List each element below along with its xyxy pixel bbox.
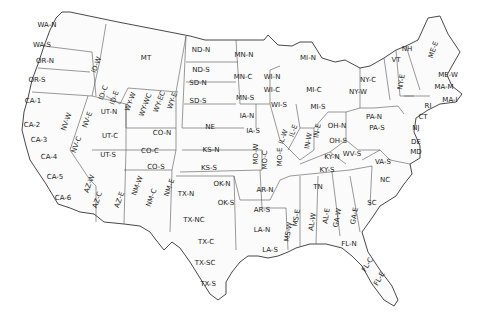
region-label-sd-n: SD-N <box>189 80 207 87</box>
region-label-tx-s: TX-S <box>200 281 216 288</box>
region-label-me-w: ME-W <box>438 72 458 79</box>
region-label-mi-n: MI-N <box>300 55 316 62</box>
region-label-ky-s: KY-S <box>320 167 335 174</box>
region-label-pa-s: PA-S <box>369 125 384 132</box>
region-label-tn: TN <box>313 184 323 191</box>
region-label-ne: NE <box>205 124 215 131</box>
region-label-wa-n: WA-N <box>38 22 57 29</box>
region-label-ny-c: NY-C <box>360 77 376 84</box>
region-label-ca-2: CA-2 <box>24 122 41 129</box>
region-label-tx-nc: TX-NC <box>183 217 204 224</box>
region-label-ks-n: KS-N <box>203 147 220 154</box>
region-label-ca-5: CA-5 <box>47 174 64 181</box>
region-label-mn-c: MN-C <box>234 74 253 81</box>
region-label-nd-s: ND-S <box>192 67 210 74</box>
region-label-md: MD <box>410 149 421 156</box>
region-label-wv-s: WV-S <box>343 151 361 158</box>
region-label-ar-n: AR-N <box>256 187 273 194</box>
region-label-nd-n: ND-N <box>192 47 210 54</box>
region-label-mt: MT <box>141 55 151 62</box>
region-label-ia-n: IA-N <box>240 113 254 120</box>
region-label-mo-c: MO-C <box>262 150 269 169</box>
region-label-la-n: LA-N <box>254 227 270 234</box>
region-label-ar-s: AR-S <box>254 207 270 214</box>
region-label-mo-w: MO-W <box>253 144 260 165</box>
region-label-ny-w: NY-W <box>349 89 367 96</box>
region-label-ca-4: CA-4 <box>41 154 58 161</box>
region-label-va-s: VA-S <box>375 159 391 166</box>
region-label-ok-s: OK-S <box>218 200 234 207</box>
region-label-nj: NJ <box>412 125 419 132</box>
region-label-tx-c: TX-C <box>198 239 214 246</box>
region-label-de: DE <box>411 139 421 146</box>
region-label-ia-s: IA-S <box>246 128 260 135</box>
region-label-ut-s: UT-S <box>100 152 116 159</box>
region-label-or-s: OR-S <box>28 77 45 84</box>
region-label-oh-s: OH-S <box>329 138 347 145</box>
region-label-co-c: CO-C <box>141 148 159 155</box>
region-label-ma-i: MA-I <box>442 97 457 104</box>
region-label-ct: CT <box>418 114 427 121</box>
region-label-mi-s: MI-S <box>310 104 325 111</box>
region-label-fl-n: FL-N <box>341 241 357 248</box>
region-label-ut-c: UT-C <box>102 133 118 140</box>
region-label-ok-n: OK-N <box>213 181 230 188</box>
region-label-wi-c: WI-C <box>264 87 280 94</box>
region-label-vt: VT <box>391 57 400 64</box>
region-label-ca-1: CA-1 <box>25 98 42 105</box>
region-label-ky-n: KY-N <box>324 154 340 161</box>
region-label-mn-n: MN-N <box>234 52 253 59</box>
region-label-wa-s: WA-S <box>33 42 51 49</box>
region-label-la-s: LA-S <box>262 247 278 254</box>
region-label-mi-c: MI-C <box>306 87 322 94</box>
region-label-nh: NH <box>402 46 413 53</box>
region-label-ks-s: KS-S <box>201 165 217 172</box>
region-label-wi-n: WI-N <box>264 74 281 81</box>
region-label-oh-n: OH-N <box>328 123 347 130</box>
region-label-wi-s: WI-S <box>271 102 287 109</box>
region-label-ca-6: CA-6 <box>55 195 72 202</box>
region-label-or-n: OR-N <box>36 58 54 65</box>
region-label-nc: NC <box>380 177 390 184</box>
region-label-ut-n: UT-N <box>101 109 118 116</box>
region-label-co-n: CO-N <box>153 130 171 137</box>
region-label-mo-e: MO-E <box>277 148 284 167</box>
region-label-sc: SC <box>367 200 376 207</box>
region-label-mn-s: MN-S <box>236 95 254 102</box>
region-label-sd-s: SD-S <box>190 98 207 105</box>
region-label-ma-m: MA-M <box>434 84 453 91</box>
region-label-co-s: CO-S <box>147 164 165 171</box>
region-label-tx-n: TX-N <box>178 191 195 198</box>
region-label-tx-sc: TX-SC <box>195 260 216 267</box>
region-label-pa-n: PA-N <box>366 114 382 121</box>
region-label-ca-3: CA-3 <box>31 137 48 144</box>
region-label-ri: RI <box>425 103 432 110</box>
